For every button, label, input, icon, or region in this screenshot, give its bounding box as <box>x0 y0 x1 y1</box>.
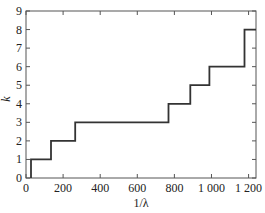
x-axis-label: 1/λ <box>133 196 148 210</box>
data-series <box>31 30 256 178</box>
y-tick-label: 4 <box>16 97 22 111</box>
x-tick-label: 400 <box>91 181 109 195</box>
y-tick-label: 9 <box>16 4 22 18</box>
x-tick-label: 0 <box>23 181 29 195</box>
y-tick-label: 7 <box>16 41 22 55</box>
y-tick-label: 1 <box>16 152 22 166</box>
step-chart: 02004006008001 0001 200 0123456789 1/λ k <box>0 0 265 213</box>
plot-frame <box>26 11 256 178</box>
y-tick-label: 8 <box>16 23 22 37</box>
step-line <box>31 30 256 178</box>
y-tick-label: 0 <box>16 171 22 185</box>
y-tick-label: 2 <box>16 134 22 148</box>
y-tick-label: 5 <box>16 78 22 92</box>
x-tick-label: 600 <box>128 181 146 195</box>
y-tick-label: 3 <box>16 115 22 129</box>
x-tick-label: 200 <box>54 181 72 195</box>
x-tick-label: 1 200 <box>235 181 262 195</box>
x-tick-label: 800 <box>165 181 183 195</box>
x-axis-ticks: 02004006008001 0001 200 <box>23 11 262 195</box>
y-axis-label: k <box>0 96 13 102</box>
x-tick-label: 1 000 <box>198 181 225 195</box>
y-tick-label: 6 <box>16 60 22 74</box>
plot-border <box>26 11 256 178</box>
y-axis-ticks: 0123456789 <box>16 4 256 185</box>
